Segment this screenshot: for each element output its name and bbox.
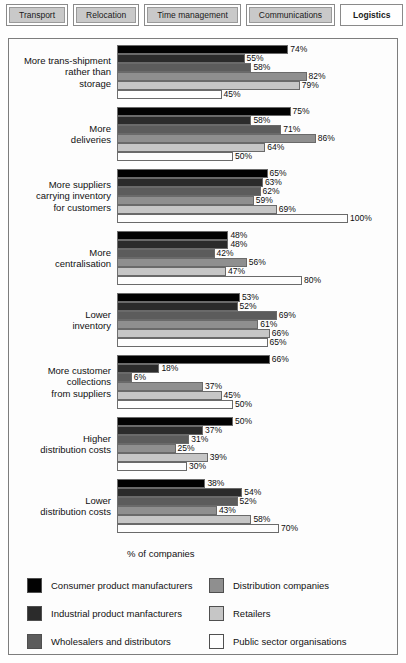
bar xyxy=(118,116,251,125)
legend-item: Consumer product manufacturers xyxy=(27,578,203,593)
bar-value-label: 66% xyxy=(270,355,289,364)
bar-row: 18% xyxy=(118,364,399,373)
legend-label: Industrial product manfacturers xyxy=(51,608,182,619)
tab-time-management[interactable]: Time management xyxy=(144,4,241,26)
tab-logistics[interactable]: Logistics xyxy=(340,4,403,26)
bar-value-label: 43% xyxy=(217,506,236,515)
bar-group-bars: 66%18%6%37%45%50% xyxy=(117,355,399,409)
bar-group: More deliveries75%58%71%86%64%50% xyxy=(9,107,399,161)
bar-row: 63% xyxy=(118,178,399,187)
bar-row: 52% xyxy=(118,302,399,311)
chart-frame: More trans-shipment rather than storage7… xyxy=(8,38,398,655)
bar-row: 25% xyxy=(118,444,399,453)
bar-value-label: 18% xyxy=(159,364,178,373)
bar-row: 58% xyxy=(118,515,399,524)
bar-value-label: 65% xyxy=(268,338,287,347)
bar-value-label: 39% xyxy=(208,453,227,462)
bar xyxy=(118,355,270,364)
bar-value-label: 50% xyxy=(233,417,252,426)
legend-swatch-icon xyxy=(27,578,42,593)
bar xyxy=(118,63,251,72)
bar xyxy=(118,293,240,302)
bar-value-label: 45% xyxy=(222,90,241,99)
bar xyxy=(118,54,245,63)
bar xyxy=(118,125,281,134)
bar-value-label: 58% xyxy=(251,515,270,524)
bar-group: More trans-shipment rather than storage7… xyxy=(9,45,399,99)
tab-label: Communications xyxy=(249,7,332,23)
bar-group-bars: 75%58%71%86%64%50% xyxy=(117,107,399,161)
bar-value-label: 56% xyxy=(247,258,266,267)
bar xyxy=(118,169,268,178)
bar-value-label: 50% xyxy=(233,400,252,409)
legend-swatch-icon xyxy=(27,606,42,621)
bar-row: 59% xyxy=(118,196,399,205)
bar xyxy=(118,90,222,99)
legend-label: Retailers xyxy=(233,608,271,619)
bar-row: 64% xyxy=(118,143,399,152)
tab-label: Logistics xyxy=(343,7,400,23)
tab-relocation[interactable]: Relocation xyxy=(73,4,139,26)
bar xyxy=(118,462,187,471)
category-label: Higher distribution costs xyxy=(9,433,117,456)
bar-value-label: 86% xyxy=(316,134,335,143)
bar-row: 48% xyxy=(118,240,399,249)
bar xyxy=(118,506,217,515)
bar-group-bars: 74%55%58%82%79%45% xyxy=(117,45,399,99)
legend-item: Public sector organisations xyxy=(209,634,385,649)
bar-value-label: 50% xyxy=(233,152,252,161)
bar xyxy=(118,515,251,524)
bar xyxy=(118,329,270,338)
bar-chart-plot: More trans-shipment rather than storage7… xyxy=(9,45,399,545)
bar-value-label: 79% xyxy=(300,81,319,90)
bar xyxy=(118,444,176,453)
legend-item: Industrial product manfacturers xyxy=(27,606,203,621)
bar-value-label: 25% xyxy=(176,444,195,453)
legend-label: Public sector organisations xyxy=(233,636,347,647)
bar xyxy=(118,400,233,409)
logistics-chart-window: TransportRelocationTime managementCommun… xyxy=(0,0,406,663)
legend-label: Wholesalers and distributors xyxy=(51,636,171,647)
chart-legend: Consumer product manufacturersDistributi… xyxy=(9,567,399,653)
bar xyxy=(118,205,277,214)
bar xyxy=(118,338,268,347)
bar-row: 58% xyxy=(118,63,399,72)
bar xyxy=(118,240,228,249)
bar xyxy=(118,320,258,329)
bar-group-bars: 38%54%52%43%58%70% xyxy=(117,479,399,533)
bar-row: 100% xyxy=(118,214,399,223)
bar-row: 50% xyxy=(118,417,399,426)
bar-row: 65% xyxy=(118,169,399,178)
bar xyxy=(118,81,300,90)
bar-value-label: 58% xyxy=(251,116,270,125)
category-label: More centralisation xyxy=(9,247,117,270)
legend-swatch-icon xyxy=(209,578,224,593)
tab-communications[interactable]: Communications xyxy=(246,4,335,26)
bar-value-label: 6% xyxy=(132,373,146,382)
bar-value-label: 70% xyxy=(279,524,298,533)
bar xyxy=(118,373,132,382)
bar-group: Lower distribution costs38%54%52%43%58%7… xyxy=(9,479,399,533)
legend-swatch-icon xyxy=(209,606,224,621)
category-label: Lower distribution costs xyxy=(9,495,117,518)
bar-row: 66% xyxy=(118,355,399,364)
bar xyxy=(118,152,233,161)
bar-row: 71% xyxy=(118,125,399,134)
tab-transport[interactable]: Transport xyxy=(6,4,68,26)
bar-row: 54% xyxy=(118,488,399,497)
bar xyxy=(118,196,254,205)
tab-label: Transport xyxy=(9,7,65,23)
bar-row: 69% xyxy=(118,311,399,320)
bar-row: 53% xyxy=(118,293,399,302)
bar-value-label: 52% xyxy=(238,302,257,311)
bar-value-label: 69% xyxy=(277,205,296,214)
bar-row: 65% xyxy=(118,338,399,347)
bar-row: 70% xyxy=(118,524,399,533)
tab-label: Time management xyxy=(147,7,238,23)
bar xyxy=(118,187,261,196)
bar xyxy=(118,479,205,488)
bar-value-label: 37% xyxy=(203,382,222,391)
bar-row: 48% xyxy=(118,231,399,240)
bar xyxy=(118,488,242,497)
bar-value-label: 74% xyxy=(288,45,307,54)
